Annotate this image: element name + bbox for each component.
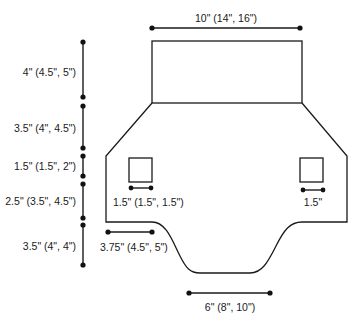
vertical-dimension-4: 2.5" (3.5", 4.5") (5, 181, 85, 220)
top-rectangle (152, 41, 302, 103)
schematic-svg: 10" (14", 16") 4" (4.5", 5") 3.5" (4", 4… (0, 0, 362, 327)
bottom-width-label: 6" (8", 10") (205, 301, 255, 313)
lower-left-dimension: 3.75" (4.5", 5") (100, 229, 168, 253)
top-width-label: 10" (14", 16") (195, 12, 257, 24)
schematic-diagram: 10" (14", 16") 4" (4.5", 5") 3.5" (4", 4… (0, 0, 362, 327)
vertical-dimension-5: 3.5" (4", 4") (23, 222, 86, 267)
vertical-dim-label-1: 4" (4.5", 5") (23, 66, 76, 78)
vertical-dimension-3: 1.5" (1.5", 2") (14, 153, 86, 178)
lower-left-label: 3.75" (4.5", 5") (100, 241, 168, 253)
right-square-label: 1.5" (304, 196, 323, 208)
vertical-dim-label-4: 2.5" (3.5", 4.5") (5, 195, 76, 207)
vertical-dim-label-5: 3.5" (4", 4") (23, 240, 76, 252)
vertical-dimension-2: 3.5" (4", 4.5") (14, 103, 86, 150)
left-square-label: 1.5" (1.5", 1.5") (113, 196, 184, 208)
top-width-dimension: 10" (14", 16") (149, 12, 302, 31)
left-square (129, 158, 152, 182)
right-square-dimension: 1.5" (301, 188, 326, 208)
vertical-dim-label-3: 1.5" (1.5", 2") (14, 160, 76, 172)
vertical-dimension-1: 4" (4.5", 5") (23, 39, 86, 99)
vertical-dim-label-2: 3.5" (4", 4.5") (14, 122, 76, 134)
bottom-width-dimension: 6" (8", 10") (186, 290, 272, 313)
right-square (300, 158, 323, 182)
left-square-dimension: 1.5" (1.5", 1.5") (113, 186, 184, 208)
